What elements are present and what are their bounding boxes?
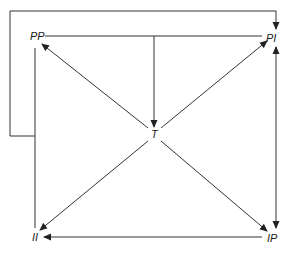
node-PI: PI <box>266 33 276 44</box>
edge-T-PI <box>161 41 267 128</box>
node-PP: PP <box>30 31 45 42</box>
edge-T-IP <box>161 141 267 231</box>
edge-loop-to-PI <box>10 11 276 136</box>
node-T: T <box>151 129 158 140</box>
node-IP: IP <box>267 233 277 244</box>
edge-T-PP <box>42 44 148 128</box>
edge-T-II <box>40 141 148 230</box>
node-II: II <box>32 232 38 243</box>
